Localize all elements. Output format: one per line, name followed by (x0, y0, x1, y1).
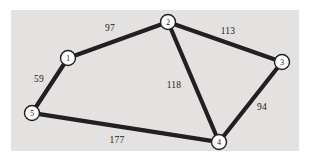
graph-canvas (0, 0, 310, 163)
node-id-label: 3 (280, 58, 284, 67)
edge-weight-label: 113 (221, 26, 236, 36)
edge-weight-label: 97 (105, 23, 115, 33)
node-id-label: 1 (66, 54, 70, 63)
node-id-label: 5 (30, 109, 34, 118)
edge-weight-label: 118 (167, 80, 182, 90)
edge-weight-label: 59 (34, 74, 44, 84)
edge-weight-label: 177 (110, 135, 125, 145)
node-id-label: 2 (166, 18, 170, 27)
node-id-label: 4 (217, 138, 221, 147)
graph-figure: 971131189459177 12345 (0, 0, 310, 163)
edge-weight-label: 94 (257, 102, 267, 112)
